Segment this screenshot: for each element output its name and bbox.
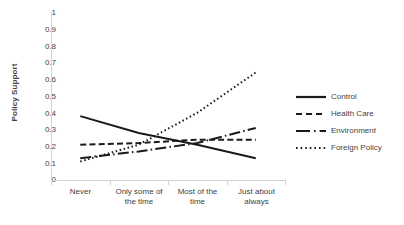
legend-item-environment: Environment [296, 122, 404, 139]
chart-legend: Control Health Care Environment Foreign … [296, 88, 404, 156]
series-line-foreign-policy [80, 72, 256, 161]
legend-label: Environment [331, 126, 376, 135]
legend-swatch-solid-icon [296, 92, 326, 102]
legend-label: Health Care [331, 109, 374, 118]
series-line-control [80, 116, 256, 158]
legend-item-health-care: Health Care [296, 105, 404, 122]
series-line-environment [80, 128, 256, 158]
series-line-health-care [80, 140, 256, 145]
legend-item-control: Control [296, 88, 404, 105]
chart-figure: Policy Support 1 0.9 0.8 0.7 0.6 0.5 0.4… [0, 0, 404, 225]
legend-label: Foreign Policy [331, 143, 382, 152]
legend-item-foreign-policy: Foreign Policy [296, 139, 404, 156]
legend-swatch-dashed-icon [296, 109, 326, 119]
legend-swatch-dash-dot-icon [296, 126, 326, 136]
legend-swatch-dotted-icon [296, 143, 326, 153]
legend-label: Control [331, 92, 357, 101]
